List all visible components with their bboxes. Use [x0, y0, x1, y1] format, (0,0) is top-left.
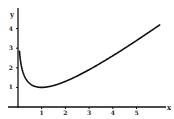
- x-tick-label: 2: [63, 109, 67, 116]
- chart: 123451234 x y: [0, 0, 174, 119]
- y-tick-label: 2: [9, 64, 13, 71]
- x-tick-label: 4: [111, 109, 115, 116]
- x-tick-label: 3: [87, 109, 91, 116]
- x-axis-label: x: [167, 103, 172, 112]
- y-axis-label: y: [9, 10, 15, 19]
- tick-labels: 123451234: [9, 25, 139, 116]
- axes: [8, 8, 166, 108]
- y-tick-label: 3: [9, 44, 13, 51]
- curve-line: [19, 25, 160, 88]
- x-tick-label: 1: [40, 109, 44, 116]
- y-tick-label: 1: [9, 83, 13, 90]
- x-tick-label: 5: [134, 109, 138, 116]
- y-tick-label: 4: [9, 25, 13, 32]
